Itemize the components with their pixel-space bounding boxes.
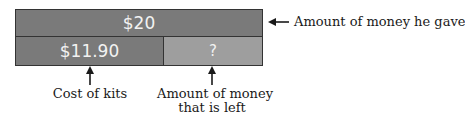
cost-bar: $11.90 xyxy=(15,36,164,66)
total-annotation: Amount of money he gave xyxy=(294,14,465,29)
cost-annotation: Cost of kits xyxy=(52,86,128,101)
total-label: $20 xyxy=(123,13,155,33)
remainder-bar: ? xyxy=(163,36,263,66)
total-bar: $20 xyxy=(15,9,263,37)
remainder-annotation-line1: Amount of money xyxy=(157,86,267,101)
up-arrow-icon xyxy=(207,66,217,86)
remainder-label: ? xyxy=(209,42,217,60)
up-arrow-icon xyxy=(85,66,95,86)
left-arrow-icon xyxy=(268,17,290,27)
remainder-annotation-line2: that is left xyxy=(157,100,267,115)
cost-label: $11.90 xyxy=(60,41,119,61)
